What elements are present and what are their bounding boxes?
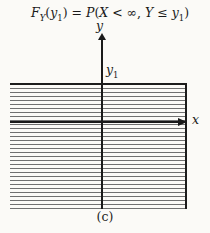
y1-subscript: 1: [113, 70, 118, 80]
y1-base: y: [106, 62, 113, 77]
x-axis-arrowhead-icon: [178, 118, 187, 126]
y-axis-label: y: [96, 18, 103, 33]
title-equals: ) =: [63, 5, 86, 20]
x-axis-label: x: [192, 112, 199, 127]
y-axis-line: [101, 39, 103, 209]
y-axis-arrowhead-icon: [98, 33, 106, 40]
figure-caption: (c): [0, 209, 210, 224]
figure-title: FY(y1) = P(X < ∞, Y ≤ y1): [12, 5, 208, 20]
hatched-probability-region: [10, 83, 187, 209]
title-func: F: [31, 5, 40, 20]
title-lt-infinity: < ∞,: [108, 5, 145, 20]
x-axis-line: [10, 121, 182, 123]
title-rparen: ): [184, 5, 189, 20]
cdf-figure: FY(y1) = P(X < ∞, Y ≤ y1) y x y1 (c): [0, 0, 210, 233]
title-leq: ≤: [153, 5, 171, 20]
y1-tick-label: y1: [106, 62, 118, 77]
title-var-y: Y: [145, 5, 153, 20]
title-var-y1: y: [172, 5, 179, 20]
